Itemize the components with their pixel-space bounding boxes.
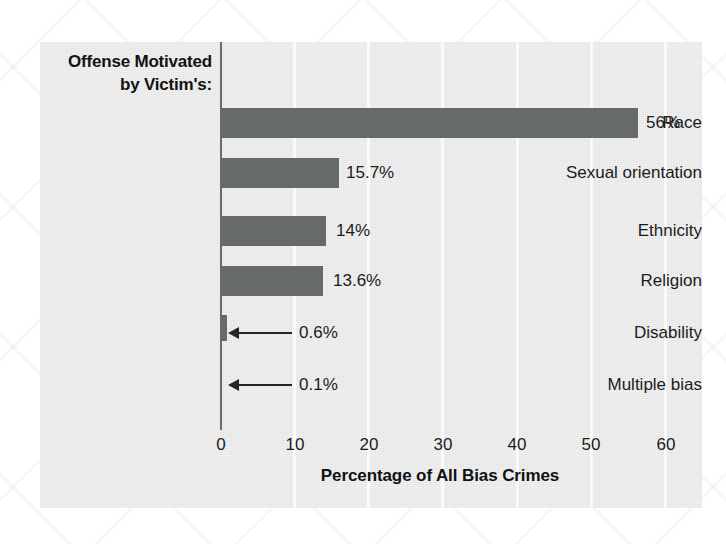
x-tick-20: 20 xyxy=(360,432,379,458)
bar-row-ethnicity: Ethnicity 14% xyxy=(40,208,702,254)
bar-sexual-orientation xyxy=(222,158,339,188)
category-label-religion: Religion xyxy=(530,258,702,304)
chart-title: Offense Motivated by Victim's: xyxy=(40,50,212,96)
chart-page: Offense Motivated by Victim's: Race 56% … xyxy=(0,0,726,544)
x-tick-30: 30 xyxy=(434,432,453,458)
x-tick-0: 0 xyxy=(216,432,225,458)
bar-disability xyxy=(222,315,227,341)
bar-ethnicity xyxy=(222,216,326,246)
annotation-arrow-disability xyxy=(228,327,292,338)
bar-row-race: Race 56% xyxy=(40,100,702,146)
chart-title-line-1: Offense Motivated xyxy=(40,50,212,73)
x-tick-40: 40 xyxy=(508,432,527,458)
value-label-sexual-orientation: 15.7% xyxy=(346,150,394,196)
bar-row-sexual-orientation: Sexual orientation 15.7% xyxy=(40,150,702,196)
bar-row-religion: Religion 13.6% xyxy=(40,258,702,304)
value-label-race: 56% xyxy=(646,100,680,146)
arrow-shaft xyxy=(237,332,292,334)
bar-row-disability: Disability 0.6% xyxy=(40,310,702,356)
value-label-disability: 0.6% xyxy=(299,310,338,356)
x-tick-60: 60 xyxy=(657,432,676,458)
x-tick-50: 50 xyxy=(582,432,601,458)
category-label-sexual-orientation: Sexual orientation xyxy=(530,150,702,196)
value-label-multiple-bias: 0.1% xyxy=(299,362,338,408)
bar-row-multiple-bias: Multiple bias 0.1% xyxy=(40,362,702,408)
category-label-ethnicity: Ethnicity xyxy=(530,208,702,254)
category-label-disability: Disability xyxy=(530,310,702,356)
bar-race xyxy=(222,108,638,138)
x-axis-ticks: 0 10 20 30 40 50 60 xyxy=(40,432,702,458)
x-axis-title: Percentage of All Bias Crimes xyxy=(220,466,660,486)
category-label-multiple-bias: Multiple bias xyxy=(530,362,702,408)
x-tick-10: 10 xyxy=(286,432,305,458)
annotation-arrow-multiple-bias xyxy=(228,379,292,390)
value-label-ethnicity: 14% xyxy=(336,208,370,254)
bar-religion xyxy=(222,266,323,296)
value-label-religion: 13.6% xyxy=(333,258,381,304)
arrow-shaft xyxy=(237,384,292,386)
chart-title-line-2: by Victim's: xyxy=(40,73,212,96)
chart-panel: Offense Motivated by Victim's: Race 56% … xyxy=(40,42,702,508)
